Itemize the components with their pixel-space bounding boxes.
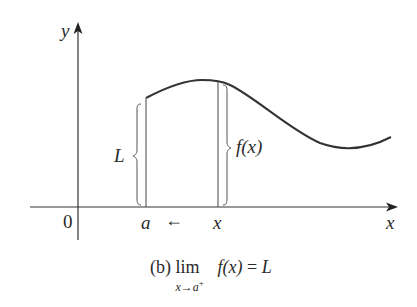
brace-L-label: L <box>114 146 125 165</box>
caption-result: L <box>262 257 272 277</box>
figure-caption: (b) limx→a+f(x) = L <box>150 258 272 276</box>
x-axis-label: x <box>386 213 394 232</box>
caption-lim-text: lim <box>176 257 200 277</box>
caption-subscript-text: x→a <box>176 280 199 294</box>
caption-prefix: (b) <box>150 257 176 277</box>
x-axis <box>30 203 398 212</box>
origin-label: 0 <box>63 212 73 231</box>
caption-equals: = <box>242 257 261 277</box>
caption-subscript-sup: + <box>199 278 204 288</box>
brace-fx-label: f(x) <box>236 137 262 156</box>
function-curve <box>146 80 391 148</box>
point-a-label: a <box>141 213 151 232</box>
point-x-label: x <box>213 213 221 232</box>
caption-limit: limx→a+ <box>176 258 218 276</box>
approach-arrow-icon: ← <box>165 211 183 229</box>
limit-diagram: y 0 a ← x x L f(x) (b) limx→a+f(x) = L <box>0 0 417 307</box>
y-axis-label: y <box>61 21 69 40</box>
brace-fx-icon <box>223 85 231 205</box>
caption-limit-subscript: x→a+ <box>176 279 204 293</box>
brace-L-icon <box>133 104 141 205</box>
caption-expression: f(x) <box>218 257 243 277</box>
